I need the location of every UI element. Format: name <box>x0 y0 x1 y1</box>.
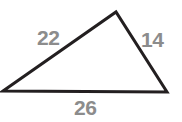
side-label-right: 14 <box>141 29 163 50</box>
triangle-outline <box>3 12 167 92</box>
triangle-figure: 22 14 26 <box>0 0 182 122</box>
side-label-bottom: 26 <box>74 97 96 118</box>
side-label-left: 22 <box>37 27 59 48</box>
